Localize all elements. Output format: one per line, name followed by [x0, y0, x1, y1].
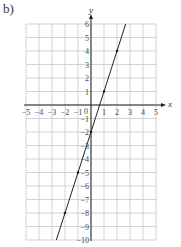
x-tick-label: −2 — [61, 108, 70, 117]
y-tick-label: 6 — [85, 20, 89, 29]
plotted-point-marker — [90, 131, 93, 134]
graph: xy−5−4−3−2−1012345654321−1−2−3−4−5−6−7−8… — [0, 0, 181, 247]
y-tick-label: −5 — [80, 169, 89, 178]
y-tick-label: −2 — [80, 128, 89, 137]
y-tick-label: 5 — [85, 34, 89, 43]
y-tick-label: 1 — [85, 88, 89, 97]
y-tick-label: −1 — [80, 115, 89, 124]
plotted-point-marker — [77, 171, 80, 174]
plotted-point-marker — [103, 90, 106, 93]
x-axis-label: x — [167, 99, 172, 109]
y-tick-label: −9 — [80, 223, 89, 232]
plotted-point-marker — [64, 212, 67, 215]
x-tick-label: 4 — [141, 108, 145, 117]
y-tick-label: 3 — [85, 61, 89, 70]
x-tick-label: 2 — [115, 108, 119, 117]
y-tick-label: −7 — [80, 196, 89, 205]
x-axis-arrow-icon — [161, 103, 166, 107]
y-tick-label: −8 — [80, 209, 89, 218]
x-tick-label: −5 — [22, 108, 31, 117]
y-tick-label: 2 — [85, 74, 89, 83]
x-tick-label: −3 — [48, 108, 57, 117]
y-axis-label: y — [88, 5, 93, 15]
y-tick-label: −10 — [76, 236, 89, 245]
x-tick-label: 5 — [154, 108, 158, 117]
x-tick-label: −4 — [35, 108, 44, 117]
x-tick-label: 3 — [128, 108, 132, 117]
y-tick-label: 4 — [85, 47, 89, 56]
x-tick-label: 1 — [102, 108, 106, 117]
y-tick-label: −6 — [80, 182, 89, 191]
plotted-point-marker — [116, 50, 119, 53]
